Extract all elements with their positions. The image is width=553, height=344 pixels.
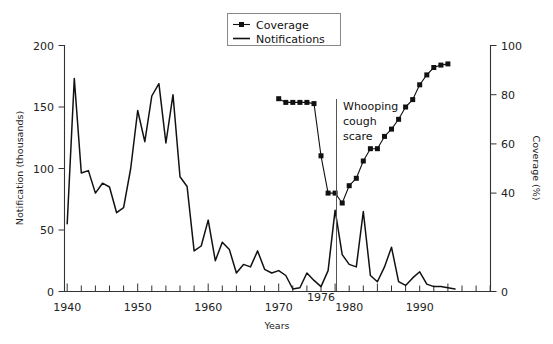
right-axis-title: Coverage (%): [531, 136, 542, 201]
xtick-label-1970: 1970: [265, 301, 293, 314]
axis-frame: [65, 45, 491, 292]
y2tick-label-40: 40: [501, 187, 515, 200]
legend-label-coverage: Coverage: [256, 19, 309, 32]
pertussis-chart-figure: 200 150 100 50 0 Notification (thousands…: [0, 0, 553, 344]
right-axis-ticks: [491, 46, 497, 292]
ytick-label-150: 150: [33, 101, 54, 114]
axes-group: [65, 45, 491, 292]
annotation-line-1: Whooping: [343, 100, 398, 113]
xtick-label-1990: 1990: [406, 301, 434, 314]
y2tick-label-100: 100: [501, 40, 522, 53]
annotation-line-3: scare: [343, 130, 373, 143]
bottom-axis-title: Years: [263, 320, 289, 331]
x-axis-tick-labels: 1940 1950 1960 1970 1976 1980 1990: [53, 291, 434, 314]
ytick-label-200: 200: [33, 40, 54, 53]
chart-legend: Coverage Notifications: [228, 14, 341, 46]
xtick-label-1940: 1940: [53, 301, 81, 314]
y2tick-label-80: 80: [501, 89, 515, 102]
ytick-label-50: 50: [40, 224, 54, 237]
annotation-line-2: cough: [343, 115, 377, 128]
xtick-label-1960: 1960: [194, 301, 222, 314]
xtick-label-1950: 1950: [124, 301, 152, 314]
y2tick-label-0: 0: [501, 286, 508, 299]
left-axis-ticks: [59, 46, 65, 292]
y2tick-label-60: 60: [501, 138, 515, 151]
chart-canvas: 200 150 100 50 0 Notification (thousands…: [0, 0, 553, 344]
xtick-label-1980: 1980: [335, 301, 363, 314]
ytick-label-0: 0: [47, 286, 54, 299]
left-axis-tick-labels: 200 150 100 50 0: [33, 40, 54, 299]
legend-swatch-coverage-marker: [239, 22, 244, 27]
xtick-label-1976: 1976: [307, 291, 335, 304]
right-axis-tick-labels: 100 80 60 40 0: [501, 40, 522, 299]
ytick-label-100: 100: [33, 163, 54, 176]
left-axis-title: Notification (thousands): [14, 111, 25, 225]
legend-label-notifications: Notifications: [256, 33, 325, 46]
